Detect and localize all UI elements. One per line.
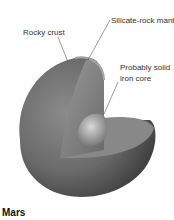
- label-core-line2: iron core: [120, 74, 151, 84]
- diagram-title: Mars: [2, 207, 25, 218]
- label-silicate-mantle: Silicate-rock mantle: [111, 16, 174, 26]
- label-rocky-crust: Rocky crust: [23, 28, 65, 38]
- label-core-line1: Probably solid: [120, 63, 170, 73]
- core-leader-line: [104, 82, 118, 114]
- mantle-leader-line: [88, 20, 110, 60]
- crust-leader-line: [58, 37, 68, 62]
